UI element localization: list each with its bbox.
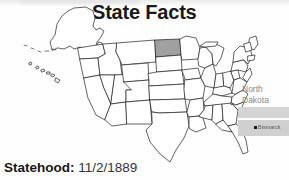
state-montana: [116, 40, 156, 65]
state-missouri: [184, 78, 205, 100]
state-mass-ct-ri: [248, 55, 255, 61]
state-wyoming: [122, 63, 149, 82]
statehood-fact: Statehood: 11/2/1889: [4, 160, 137, 175]
state-hawaii: [29, 62, 60, 83]
statehood-label: Statehood:: [4, 160, 75, 175]
map-states-group: [24, 7, 258, 162]
state-oklahoma: [150, 99, 187, 113]
state-michigan-up: [200, 42, 218, 47]
statehood-value: 11/2/1889: [78, 160, 137, 175]
inset-state-name: North Dakota: [242, 84, 289, 105]
inset-band-upper: [238, 107, 289, 118]
state-south-dakota: [156, 55, 182, 72]
state-minnesota: [180, 36, 200, 60]
capital-city-label: Bismarck: [258, 124, 281, 130]
inset-state-name-line2: Dakota: [242, 95, 289, 106]
state-facts-page: State Facts: [0, 0, 289, 180]
us-map: [0, 2, 260, 174]
state-new-mexico: [126, 100, 152, 124]
state-indiana: [214, 73, 224, 88]
state-nebraska: [148, 70, 184, 86]
state-inset-panel: North Dakota Bismarck: [236, 84, 289, 138]
state-oregon: [80, 58, 100, 78]
state-north-dakota: [155, 39, 181, 57]
inset-state-name-line1: North: [242, 84, 289, 95]
state-kansas: [149, 84, 185, 100]
state-colorado: [124, 80, 150, 102]
capital-city-marker-icon: [254, 126, 257, 129]
state-texas: [146, 112, 189, 162]
state-alaska: [50, 7, 104, 50]
